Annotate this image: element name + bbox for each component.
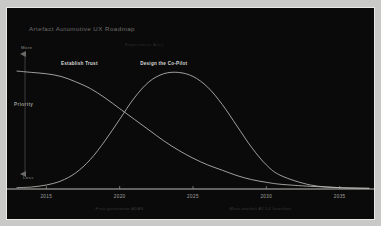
x-axis-tick-label-2025: 2025 xyxy=(187,195,199,200)
y-axis-high-label: More xyxy=(21,46,32,50)
series-line-establish-trust xyxy=(17,71,369,188)
chart-annotation-2: Mass-market AV L4 launches xyxy=(229,207,291,211)
x-axis-tick-label-2030: 2030 xyxy=(260,195,272,200)
screenshot-root: Artefact Automotive UX Roadmap Experienc… xyxy=(0,0,381,226)
page-title: Artefact Automotive UX Roadmap xyxy=(29,26,135,32)
chart-canvas xyxy=(7,8,374,219)
x-axis-tick-label-2020: 2020 xyxy=(114,195,126,200)
series-label-design-the-co-pilot: Design the Co-Pilot xyxy=(140,62,187,67)
x-axis-ticks xyxy=(46,186,339,189)
chart-plot-area: Artefact Automotive UX Roadmap Experienc… xyxy=(7,8,374,219)
x-axis-tick-label-2035: 2035 xyxy=(334,195,346,200)
series-line-design-the-co-pilot xyxy=(17,72,369,188)
x-axis-tick-label-2015: 2015 xyxy=(40,195,52,200)
chart-annotation-1: First-generation ADAS xyxy=(96,207,144,211)
chart-subtitle: Experience Arcs xyxy=(125,43,164,47)
series-label-establish-trust: Establish Trust xyxy=(61,62,98,67)
series-paths xyxy=(17,71,369,188)
y-axis-title: Priority xyxy=(14,103,33,108)
y-axis-low-label: Less xyxy=(23,176,34,180)
chart-card: Artefact Automotive UX Roadmap Experienc… xyxy=(7,8,374,219)
